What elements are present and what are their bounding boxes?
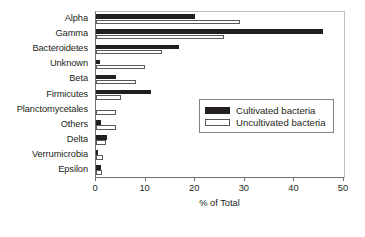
bar-beta-uncultivated (96, 80, 136, 85)
bar-group (96, 60, 344, 70)
bar-planctomycetales-uncultivated (96, 110, 116, 115)
x-tick-label-10: 10 (130, 183, 160, 194)
bar-epsilon-uncultivated (96, 170, 102, 175)
bar-delta-cultivated (96, 135, 107, 140)
x-tick-10 (145, 177, 146, 181)
y-axis-label-epsilon: Epsilon (0, 164, 88, 174)
legend-swatch-cultivated-icon (205, 107, 230, 114)
bar-group (96, 135, 344, 145)
legend-item-cultivated: Cultivated bacteria (205, 104, 326, 116)
x-axis-line (95, 177, 344, 178)
x-tick-30 (244, 177, 245, 181)
legend-item-uncultivated: Uncultivated bacteria (205, 116, 326, 128)
bar-group (96, 45, 344, 55)
bar-gamma-cultivated (96, 29, 323, 34)
legend-swatch-uncultivated-icon (205, 119, 230, 126)
bar-bacteroidetes-uncultivated (96, 50, 162, 55)
x-tick-40 (293, 177, 294, 181)
chart-legend: Cultivated bacteria Uncultivated bacteri… (199, 99, 334, 133)
bar-epsilon-cultivated (96, 165, 101, 170)
bar-alpha-uncultivated (96, 20, 240, 25)
bar-others-cultivated (96, 120, 101, 125)
y-axis-label-bacteroidetes: Bacteroidetes (0, 43, 88, 53)
bar-firmicutes-cultivated (96, 90, 151, 95)
y-axis-label-alpha: Alpha (0, 13, 88, 23)
bar-others-uncultivated (96, 125, 116, 130)
bar-alpha-cultivated (96, 14, 195, 19)
x-tick-0 (95, 177, 96, 181)
legend-label-uncultivated: Uncultivated bacteria (236, 117, 326, 128)
bar-verrumicrobia-cultivated (96, 150, 98, 155)
x-tick-label-50: 50 (328, 183, 358, 194)
y-axis-label-firmicutes: Firmicutes (0, 89, 88, 99)
x-tick-label-0: 0 (80, 183, 110, 194)
y-axis-label-beta: Beta (0, 73, 88, 83)
plot-area (95, 11, 345, 178)
bar-beta-cultivated (96, 75, 116, 80)
bar-unknown-cultivated (96, 60, 100, 65)
bar-gamma-uncultivated (96, 35, 224, 40)
bar-group (96, 14, 344, 24)
x-tick-50 (343, 177, 344, 181)
bar-bacteroidetes-cultivated (96, 45, 179, 50)
bar-group (96, 75, 344, 85)
bar-unknown-uncultivated (96, 65, 145, 70)
legend-label-cultivated: Cultivated bacteria (236, 105, 315, 116)
y-axis-category-labels: AlphaGammaBacteroidetesUnknownBetaFirmic… (0, 11, 88, 177)
bar-group (96, 29, 344, 39)
y-axis-label-verrumicrobia: Verrumicrobia (0, 149, 88, 159)
y-axis-label-unknown: Unknown (0, 58, 88, 68)
bar-firmicutes-uncultivated (96, 95, 121, 100)
chart-container: AlphaGammaBacteroidetesUnknownBetaFirmic… (0, 0, 365, 237)
x-tick-20 (194, 177, 195, 181)
x-tick-label-30: 30 (229, 183, 259, 194)
x-tick-label-20: 20 (179, 183, 209, 194)
y-axis-label-others: Others (0, 119, 88, 129)
bar-group (96, 165, 344, 175)
x-axis-title: % of Total (95, 198, 344, 208)
bar-verrumicrobia-uncultivated (96, 155, 103, 160)
bar-group (96, 150, 344, 160)
y-axis-label-gamma: Gamma (0, 28, 88, 38)
x-tick-label-40: 40 (278, 183, 308, 194)
y-axis-label-delta: Delta (0, 134, 88, 144)
bar-delta-uncultivated (96, 140, 106, 145)
y-axis-label-planctomycetales: Planctomycetales (0, 104, 88, 114)
